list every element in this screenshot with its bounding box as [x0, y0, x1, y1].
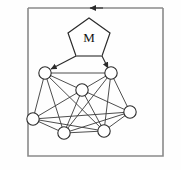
controller-pentagon: M — [68, 18, 110, 56]
node-right[interactable] — [124, 106, 136, 118]
controller-label: M — [83, 30, 95, 45]
figure-canvas: M — [0, 0, 181, 170]
node-bottom-right[interactable] — [98, 125, 110, 137]
node-left[interactable] — [27, 113, 39, 125]
node-top-left[interactable] — [39, 67, 51, 79]
node-top-right[interactable] — [105, 67, 117, 79]
graph-edges — [33, 73, 130, 133]
graph-nodes — [27, 67, 136, 139]
control-arrow-left — [51, 56, 76, 69]
control-arrow-right — [102, 56, 108, 68]
node-center[interactable] — [76, 84, 88, 96]
node-bottom-left[interactable] — [58, 127, 70, 139]
diagram-svg: M — [0, 0, 181, 170]
